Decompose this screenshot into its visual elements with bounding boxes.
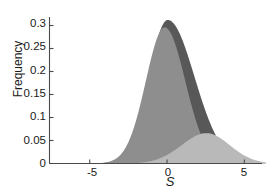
figure-container: Frequency S 0.3 0.25 0.2 0.15 0.1 0.05 0…	[0, 0, 272, 193]
series-areas	[50, 20, 267, 164]
plot-area	[0, 0, 272, 193]
area-medium-distribution	[50, 27, 267, 163]
